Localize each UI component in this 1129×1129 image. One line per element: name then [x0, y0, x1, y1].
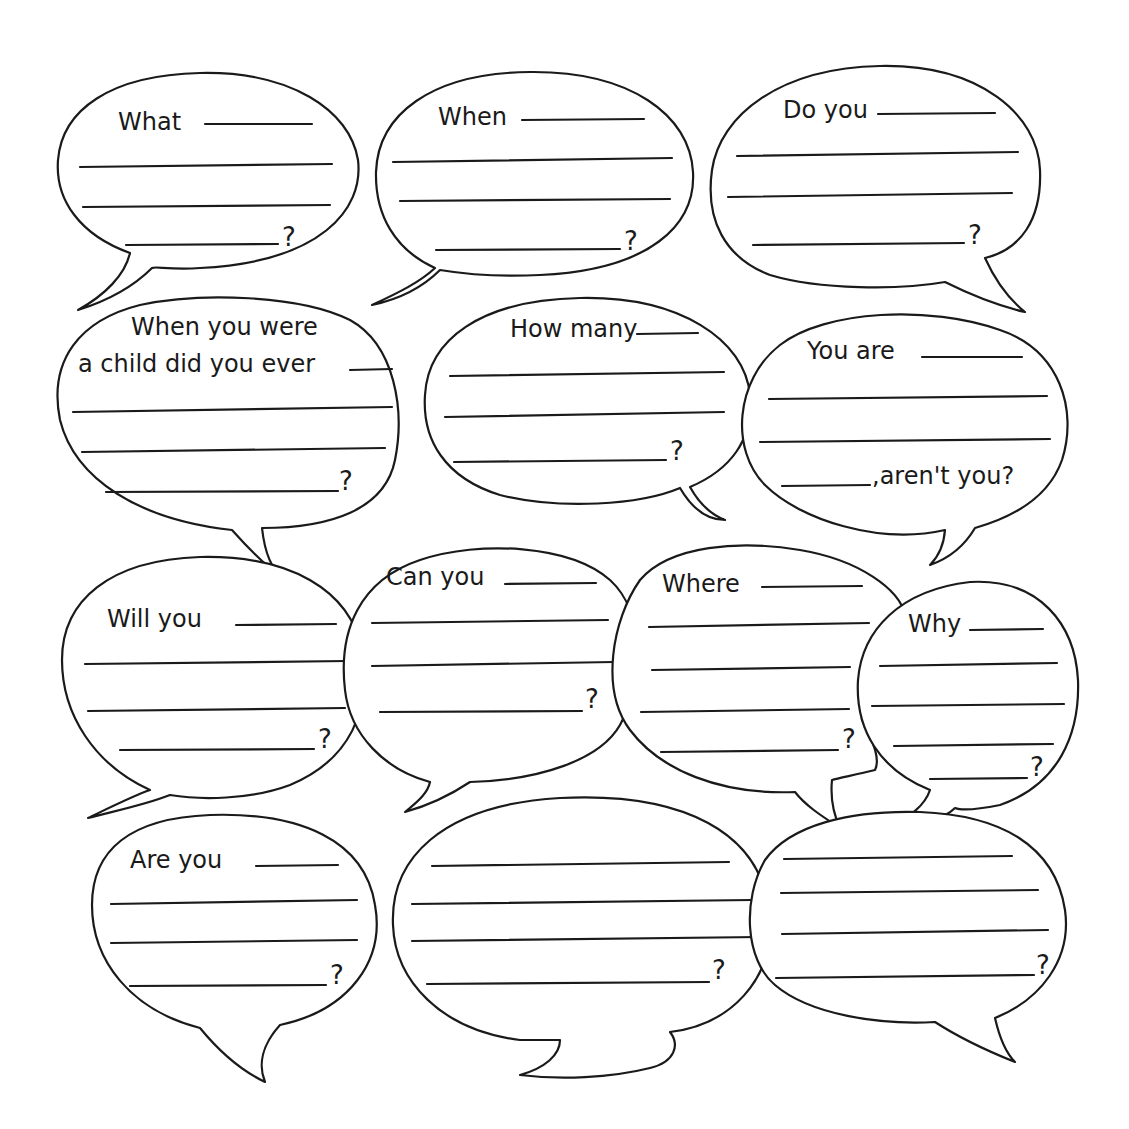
- bubble-are-you: Are you ?: [92, 815, 377, 1082]
- bubble-will-you: Will you ?: [62, 557, 364, 818]
- answer-line[interactable]: [350, 369, 392, 370]
- answer-line[interactable]: [380, 711, 582, 712]
- speech-bubble-outline: [62, 557, 364, 818]
- prompt-text: Why: [908, 610, 961, 638]
- answer-line[interactable]: [120, 749, 314, 750]
- answer-line[interactable]: [505, 583, 596, 584]
- prompt-text: What: [118, 108, 181, 136]
- bubble-blank-2: ?: [750, 812, 1066, 1062]
- prompt-text-line2: a child did you ever: [78, 350, 315, 378]
- answer-line[interactable]: [637, 333, 698, 334]
- prompt-text: Will you: [107, 605, 202, 633]
- speech-bubble-outline: [711, 66, 1040, 312]
- tag-question-ending: ,aren't you?: [872, 462, 1014, 490]
- question-mark: ?: [712, 955, 726, 985]
- question-mark: ?: [282, 222, 296, 252]
- answer-line[interactable]: [522, 119, 644, 120]
- question-mark: ?: [670, 436, 684, 466]
- speech-bubble-outline: [372, 72, 693, 305]
- bubble-why: Why ?: [858, 582, 1078, 826]
- prompt-text: You are: [806, 337, 895, 365]
- prompt-text: Can you: [386, 563, 484, 591]
- answer-line[interactable]: [970, 629, 1043, 630]
- bubble-blank-1: ?: [393, 797, 770, 1077]
- speech-bubble-outline: [58, 73, 359, 310]
- answer-line[interactable]: [878, 113, 995, 114]
- answer-line[interactable]: [782, 485, 870, 486]
- prompt-text: When you were: [131, 313, 318, 341]
- answer-line[interactable]: [126, 244, 278, 245]
- question-mark: ?: [1036, 950, 1050, 980]
- bubble-you-are: You are ,aren't you?: [742, 314, 1068, 565]
- answer-line[interactable]: [762, 586, 862, 587]
- question-mark: ?: [624, 226, 638, 256]
- answer-line[interactable]: [236, 624, 336, 625]
- prompt-text: Are you: [130, 846, 222, 874]
- question-mark: ?: [1030, 752, 1044, 782]
- bubble-when: When ?: [372, 72, 693, 305]
- prompt-text: Do you: [783, 96, 868, 124]
- answer-line[interactable]: [436, 249, 620, 250]
- answer-line[interactable]: [930, 778, 1027, 779]
- bubble-what: What ?: [58, 73, 359, 310]
- speech-bubble-worksheet: What ? When ? Do you ? When you were a c…: [0, 0, 1129, 1129]
- prompt-text: How many: [510, 315, 638, 343]
- question-mark: ?: [842, 724, 856, 754]
- bubble-how-many: How many ?: [425, 298, 751, 520]
- question-mark: ?: [318, 724, 332, 754]
- prompt-text: Where: [662, 570, 740, 598]
- answer-line[interactable]: [106, 491, 338, 492]
- bubble-do-you: Do you ?: [711, 66, 1040, 312]
- answer-line[interactable]: [130, 985, 326, 986]
- prompt-text: When: [438, 103, 507, 131]
- question-mark: ?: [968, 220, 982, 250]
- bubble-can-you: Can you ?: [344, 548, 638, 812]
- bubble-when-child: When you were a child did you ever ?: [58, 297, 399, 578]
- speech-bubble-outline: [750, 812, 1066, 1062]
- question-mark: ?: [330, 960, 344, 990]
- question-mark: ?: [339, 466, 353, 496]
- answer-line[interactable]: [256, 865, 338, 866]
- question-mark: ?: [585, 684, 599, 714]
